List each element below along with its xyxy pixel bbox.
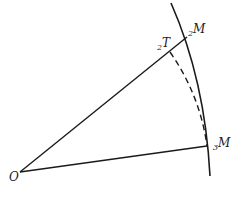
label-2m: 2M: [187, 22, 206, 38]
label-2t: 2T: [156, 36, 171, 52]
geometry-diagram: O 2T 2M 3M: [0, 0, 246, 198]
label-origin: O: [9, 170, 19, 184]
label-3m: 3M: [213, 136, 231, 152]
